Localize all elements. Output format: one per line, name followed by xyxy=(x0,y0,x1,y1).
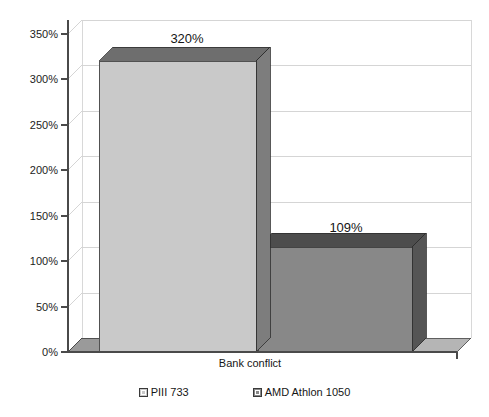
plot-back-wall-top xyxy=(68,20,471,34)
bar-1-top-face xyxy=(99,47,270,61)
bar-1-front-face xyxy=(99,61,256,352)
legend-label: AMD Athlon 1050 xyxy=(265,387,351,398)
y-tick-label-100: 100% xyxy=(10,256,58,267)
bar-2-side-face xyxy=(412,233,426,352)
legend-item-amd-athlon-1050[interactable]: AMD Athlon 1050 xyxy=(253,387,351,398)
bar-2-top-face xyxy=(258,233,426,247)
x-axis-title: Bank conflict xyxy=(180,358,320,369)
bar-1-side-face xyxy=(256,47,270,352)
legend-swatch-icon xyxy=(139,388,148,397)
y-tick-label-300: 300% xyxy=(10,74,58,85)
y-tick-label-150: 150% xyxy=(10,211,58,222)
y-tick-label-250: 250% xyxy=(10,120,58,131)
bar-chart: 350% 300% 250% 200% 150% 100% 50% 0% 320… xyxy=(0,0,489,417)
legend-swatch-icon xyxy=(253,388,262,397)
data-label-bar-1: 320% xyxy=(132,32,242,45)
bar-2-front-face xyxy=(258,247,412,352)
chart-canvas xyxy=(0,0,489,417)
y-axis-ticks xyxy=(61,34,68,352)
chart-legend: PIII 733 AMD Athlon 1050 xyxy=(0,384,489,400)
y-tick-label-350: 350% xyxy=(10,29,58,40)
y-tick-label-0: 0% xyxy=(10,347,58,358)
legend-item-piii-733[interactable]: PIII 733 xyxy=(139,387,189,398)
legend-label: PIII 733 xyxy=(151,387,189,398)
y-tick-label-50: 50% xyxy=(10,302,58,313)
y-tick-label-200: 200% xyxy=(10,165,58,176)
data-label-bar-2: 109% xyxy=(291,221,401,234)
